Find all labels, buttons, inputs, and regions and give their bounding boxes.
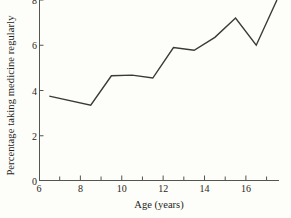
y-axis-tick-label: 4 xyxy=(23,85,37,96)
y-axis-ticks xyxy=(40,0,44,181)
x-axis-tick-label: 12 xyxy=(153,183,173,194)
y-axis-tick-label: 6 xyxy=(23,40,37,51)
x-axis-tick-labels: 6810121416 xyxy=(39,183,279,197)
x-axis-ticks xyxy=(39,176,267,181)
line-chart-svg xyxy=(39,0,279,181)
plot-area xyxy=(39,0,279,181)
y-axis-title-text: Percentage taking medicine regularly xyxy=(5,15,16,175)
y-axis-tick-label: 8 xyxy=(23,0,37,6)
x-axis-tick-label: 14 xyxy=(195,183,215,194)
x-axis-tick-label: 6 xyxy=(29,183,49,194)
x-axis-tick-label: 8 xyxy=(70,183,90,194)
chart-screenshot: Percentage taking medicine regularly 024… xyxy=(0,0,291,218)
x-axis-title: Age (years) xyxy=(39,199,279,210)
x-axis-tick-label: 10 xyxy=(112,183,132,194)
x-axis-tick-label: 16 xyxy=(236,183,256,194)
y-axis-tick-label: 2 xyxy=(23,130,37,141)
data-line-series xyxy=(49,0,277,105)
y-axis-tick-labels: 02468 xyxy=(20,0,37,181)
y-axis-title: Percentage taking medicine regularly xyxy=(0,0,20,190)
